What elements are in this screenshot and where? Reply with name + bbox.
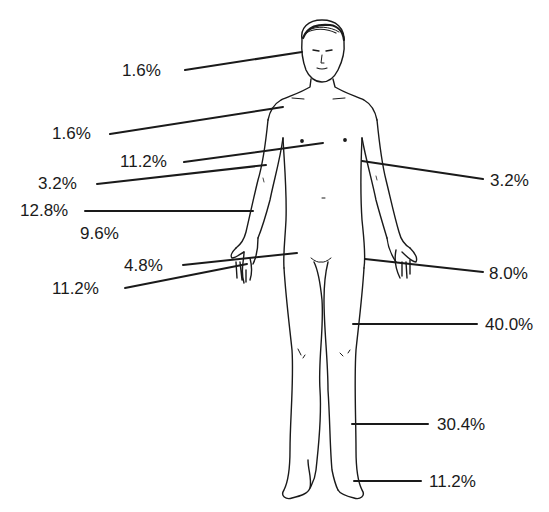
head-outline [302,20,344,82]
percentage-label-hand-left: 11.2% [52,280,99,297]
percentage-label-forearm-left: 12.8% [20,202,68,219]
percentage-label-shin: 30.4% [437,416,485,433]
leader-line [185,52,302,70]
body-percentage-diagram: 1.6%1.6%11.2%3.2%12.8%9.6%4.8%11.2%3.2%8… [0,0,549,512]
percentage-label-shoulder: 1.6% [52,125,91,142]
percentage-label-upper-arm-right: 3.2% [490,172,529,189]
leader-line [365,259,483,272]
percentage-label-thigh: 40.0% [485,316,533,333]
legs-outline [283,258,364,499]
percentage-label-head: 1.6% [122,62,161,79]
percentage-label-chest: 11.2% [120,153,167,170]
leader-line [184,143,323,162]
percentage-label-upper-arm-left: 3.2% [38,175,77,192]
leader-line [110,107,283,134]
percentage-label-hand-right: 8.0% [489,265,528,282]
leader-line [362,161,483,179]
percentage-label-abdomen: 9.6% [80,225,119,242]
percentage-label-wrist-left: 4.8% [124,257,163,274]
right-hand [387,238,417,278]
percentage-label-foot: 11.2% [429,473,476,490]
torso-outline [236,79,410,268]
human-figure-drawing [0,0,549,512]
